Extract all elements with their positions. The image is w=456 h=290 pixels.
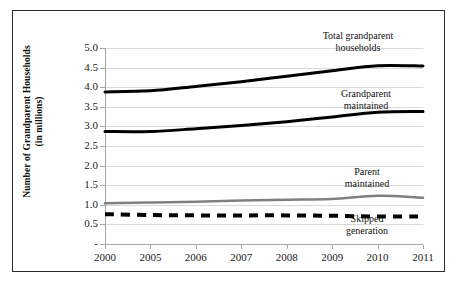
x-axis-tick-mark — [241, 245, 242, 249]
annotation-grandparent-maintained: Grandparent maintained — [310, 88, 422, 111]
y-axis-tick-label: 5.0 — [64, 41, 98, 53]
y-axis-title-line1: Number of Grandparent Households — [22, 45, 32, 198]
annotation-total-grandparent-households: Total grandparent households — [293, 30, 423, 53]
annotation-parent-line2: maintained — [313, 178, 421, 190]
y-axis-tick-label: 3.0 — [64, 119, 98, 131]
y-axis-title-line2: (in millions) — [33, 27, 45, 217]
x-axis-tick-label: 2010 — [356, 251, 400, 263]
series-line — [105, 112, 423, 132]
y-axis-tick-label: 2.5 — [64, 139, 98, 151]
x-axis-tick-mark — [150, 245, 151, 249]
x-axis-line — [105, 244, 423, 245]
x-axis-tick-label: 2005 — [128, 251, 172, 263]
annotation-total-line1: Total grandparent — [293, 30, 423, 42]
y-axis-tick-label: 4.0 — [64, 80, 98, 92]
y-axis-tick-labels: -0.51.01.52.02.53.03.54.04.55.0 — [60, 0, 98, 290]
y-axis-tick-label: 3.5 — [64, 100, 98, 112]
x-axis-tick-label: 2009 — [310, 251, 354, 263]
x-axis-tick-label: 2000 — [83, 251, 127, 263]
x-axis-tick-mark — [105, 245, 106, 249]
y-axis-tick-label: - — [64, 237, 98, 249]
y-axis-tick-label: 4.5 — [64, 61, 98, 73]
x-axis-tick-mark — [378, 245, 379, 249]
series-line — [105, 196, 423, 203]
chart-figure: Number of Grandparent Households (in mil… — [0, 0, 456, 290]
y-axis-tick-label: 1.5 — [64, 178, 98, 190]
y-axis-tick-label: 2.0 — [64, 159, 98, 171]
annotation-skipped-line1: Skipped — [313, 213, 421, 225]
annotation-skipped-generation: Skipped generation — [313, 213, 421, 236]
x-axis-tick-mark — [196, 245, 197, 249]
y-axis-title: Number of Grandparent Households (in mil… — [22, 27, 45, 217]
x-axis-tick-label: 2008 — [265, 251, 309, 263]
annotation-parent-line1: Parent — [313, 166, 421, 178]
x-axis-tick-mark — [287, 245, 288, 249]
annotation-grandparent-line1: Grandparent — [310, 88, 422, 100]
x-axis-tick-label: 2011 — [401, 251, 445, 263]
y-axis-tick-label: 1.0 — [64, 198, 98, 210]
x-axis-tick-label: 2007 — [219, 251, 263, 263]
x-axis-tick-mark — [423, 245, 424, 249]
annotation-skipped-line2: generation — [313, 225, 421, 237]
x-axis-tick-mark — [332, 245, 333, 249]
annotation-total-line2: households — [293, 42, 423, 54]
x-axis-tick-label: 2006 — [174, 251, 218, 263]
annotation-parent-maintained: Parent maintained — [313, 166, 421, 189]
y-axis-tick-label: 0.5 — [64, 217, 98, 229]
annotation-grandparent-line2: maintained — [310, 100, 422, 112]
